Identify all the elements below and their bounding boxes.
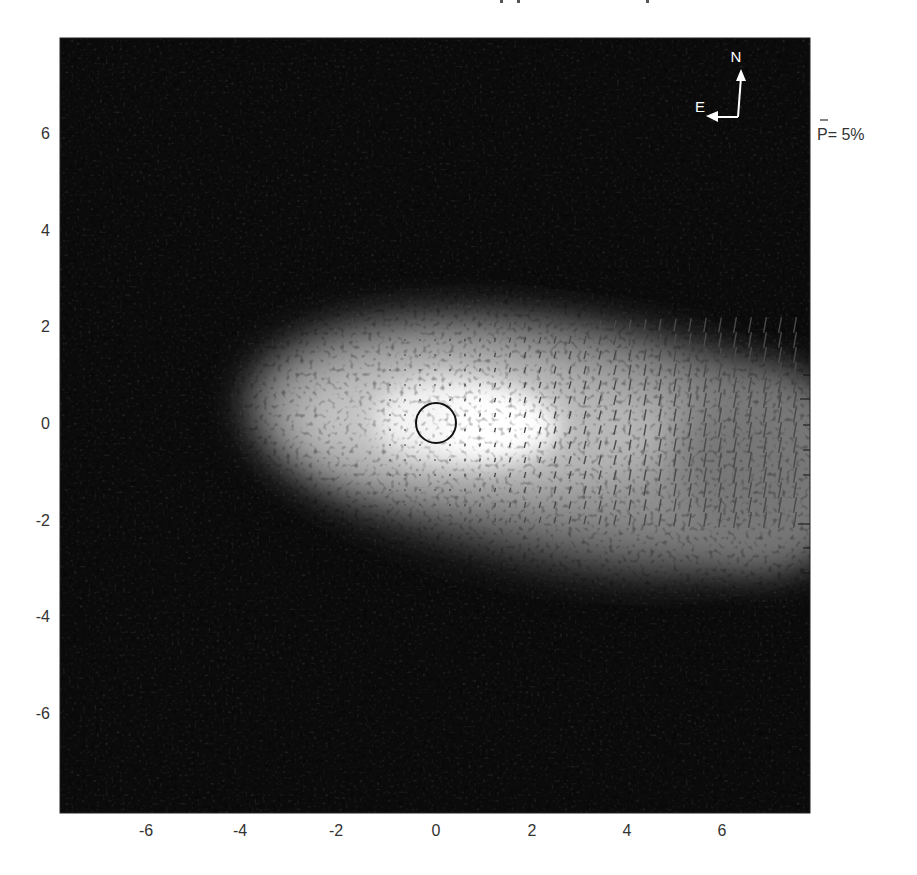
y-tick-label: 4: [41, 222, 50, 239]
polarization-vector: [480, 473, 481, 476]
polarization-vector: [480, 518, 481, 521]
x-tick-label: -4: [233, 822, 247, 839]
polarization-vector: [450, 354, 451, 356]
polarization-vector: [450, 369, 451, 371]
x-tick-label: 6: [718, 822, 727, 839]
compass-east-label: E: [695, 98, 705, 115]
polarization-vector: [495, 458, 496, 462]
polarization-vector: [495, 473, 496, 477]
polarization-vector: [465, 504, 466, 507]
image-plot-area: N E: [60, 38, 874, 813]
polarization-scale-legend: P= 5%: [817, 120, 865, 143]
polarization-vector: [450, 474, 451, 476]
polarization-vector: [495, 443, 496, 447]
title-cropped-remnant: [500, 0, 649, 3]
y-tick-label: 0: [41, 415, 50, 432]
polarization-vector: [465, 354, 466, 357]
y-tick-label: 2: [41, 318, 50, 335]
polarization-vector: [465, 339, 466, 342]
x-tick-label: -2: [329, 822, 343, 839]
polarization-vector: [495, 398, 496, 402]
polarization-vector: [465, 414, 466, 417]
polarization-vector: [465, 384, 466, 387]
polarization-vector: [480, 488, 481, 491]
x-tick-label: 4: [623, 822, 632, 839]
x-tick-label: -6: [139, 822, 153, 839]
x-tick-label: 0: [432, 822, 441, 839]
polarization-vector: [495, 428, 496, 432]
polarization-vector: [480, 368, 481, 371]
polarization-vector: [465, 399, 466, 402]
polarization-vector: [450, 384, 451, 386]
polarization-vector: [465, 474, 466, 477]
polarization-vector: [480, 458, 481, 461]
polarization-vector: [480, 383, 481, 386]
polarization-vector: [450, 444, 451, 446]
polarization-vector: [480, 428, 481, 431]
polarization-vector: [450, 459, 451, 461]
polarization-vector: [495, 518, 496, 522]
polarization-vector: [465, 519, 466, 522]
polarization-vector: [465, 489, 466, 492]
polarization-vector: [480, 398, 481, 401]
polarization-vector: [495, 338, 496, 342]
polarization-vector: [450, 504, 451, 506]
polarization-vector: [495, 503, 496, 507]
polarization-vector: [465, 429, 466, 432]
polarization-vector: [450, 519, 451, 521]
polarization-map-figure: N E 6 4 2 0 -2 -4 -6 -6 -4 -2 0 2 4 6: [0, 0, 917, 875]
polarization-vector: [450, 399, 451, 401]
polarization-vector: [495, 323, 496, 327]
polarization-vector: [495, 488, 496, 492]
y-tick-label: -6: [36, 705, 50, 722]
polarization-vector: [495, 353, 496, 357]
y-tick-label: -4: [36, 608, 50, 625]
polarization-vector: [495, 413, 496, 417]
polarization-vector: [450, 489, 451, 491]
polarization-vector: [480, 443, 481, 446]
y-axis-tick-labels: 6 4 2 0 -2 -4 -6: [36, 125, 50, 722]
polarization-vector: [495, 368, 496, 372]
x-tick-label: 2: [528, 822, 537, 839]
polarization-vector: [480, 353, 481, 356]
polarization-vector: [450, 339, 451, 341]
polarization-vector: [465, 459, 466, 462]
polarization-vector: [480, 413, 481, 416]
polarization-vector: [465, 324, 466, 327]
y-tick-label: 6: [41, 125, 50, 142]
polarization-vector: [480, 503, 481, 506]
legend-label: P= 5%: [817, 126, 865, 143]
polarization-vector: [480, 323, 481, 326]
polarization-vector: [495, 383, 496, 387]
polarization-vector: [450, 324, 451, 326]
polarization-vector: [465, 369, 466, 372]
y-tick-label: -2: [36, 512, 50, 529]
polarization-vector: [480, 338, 481, 341]
compass-north-label: N: [731, 48, 742, 65]
x-axis-tick-labels: -6 -4 -2 0 2 4 6: [139, 822, 727, 839]
polarization-vector: [465, 444, 466, 447]
